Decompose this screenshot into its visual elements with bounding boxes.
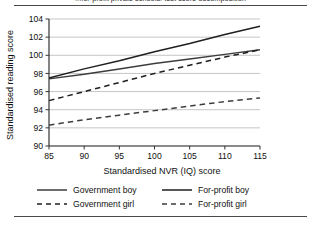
y-tick-label: 92 [33, 123, 43, 133]
bottom-horizontal-rule [14, 216, 307, 217]
series-line-for-profit-boy [49, 26, 260, 78]
x-tick-label: 110 [218, 151, 232, 161]
legend-entry-government-boy: Government boy [37, 185, 162, 195]
data-series-group [49, 26, 260, 125]
x-tick-label: 90 [79, 151, 89, 161]
legend-entry-government-girl: Government girl [37, 199, 162, 209]
legend-label-for-profit-boy: For-profit boy [198, 185, 249, 195]
plot-area-wrapper: 9092949698100102104 859095100105110115 S… [0, 8, 321, 178]
legend-swatch-solid-for-profit-boy [162, 186, 192, 194]
figure-title-clipped: ...for-profit private schools: test scor… [14, 0, 307, 4]
y-axis-title: Standardised reading score [5, 30, 15, 140]
series-line-for-profit-girl [49, 98, 260, 125]
top-horizontal-rule [14, 5, 307, 6]
y-tick-label: 96 [33, 87, 43, 97]
y-tick-label: 100 [29, 50, 44, 60]
x-axis-title: Standardised NVR (IQ) score [103, 166, 220, 176]
y-tick-label: 104 [29, 14, 44, 24]
legend-row-boys: Government boy For-profit boy [0, 183, 321, 197]
y-tick-label: 90 [33, 141, 43, 151]
legend-swatch-dashed-for-profit-girl [162, 200, 192, 208]
series-line-government-boy [49, 50, 260, 79]
line-chart: 9092949698100102104 859095100105110115 S… [0, 8, 321, 178]
x-tick-label: 85 [44, 151, 54, 161]
legend-swatch-dashed-government-girl [37, 200, 67, 208]
figure-title-text: ...for-profit private schools: test scor… [14, 0, 307, 4]
legend-label-for-profit-girl: For-profit girl [198, 199, 247, 209]
axis-lines-group [49, 19, 260, 146]
y-tick-label: 98 [33, 69, 43, 79]
chart-legend: Government boy For-profit boy Government… [0, 183, 321, 213]
gridlines-group [49, 19, 260, 146]
legend-swatch-solid-government-boy [37, 186, 67, 194]
x-tick-label: 100 [147, 151, 162, 161]
y-tick-group: 9092949698100102104 [29, 14, 49, 151]
legend-entry-for-profit-boy: For-profit boy [162, 185, 284, 195]
x-tick-label: 105 [182, 151, 197, 161]
legend-label-government-girl: Government girl [73, 199, 134, 209]
x-tick-group: 859095100105110115 [44, 146, 267, 161]
x-tick-label: 115 [253, 151, 267, 161]
y-tick-label: 102 [29, 32, 44, 42]
legend-row-girls: Government girl For-profit girl [0, 197, 321, 211]
legend-entry-for-profit-girl: For-profit girl [162, 199, 284, 209]
legend-label-government-boy: Government boy [73, 185, 137, 195]
figure-container: ...for-profit private schools: test scor… [0, 0, 321, 228]
x-tick-label: 95 [115, 151, 125, 161]
y-tick-label: 94 [33, 105, 43, 115]
